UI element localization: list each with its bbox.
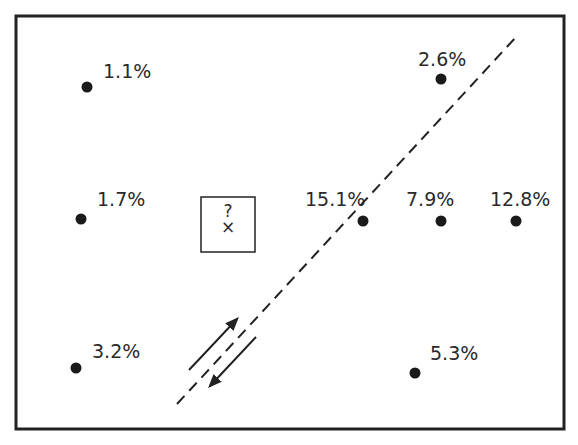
point-dot-icon [436,74,447,85]
data-point-p8: 5.3% [410,342,479,379]
point-dot-icon [511,216,522,227]
point-dot-icon [358,216,369,227]
data-point-p6: 7.9% [406,188,454,227]
arrow-up-right [189,319,237,370]
point-dot-icon [410,368,421,379]
point-label: 15.1% [305,188,365,210]
data-point-p4: 2.6% [418,48,466,85]
data-points: 1.1%1.7%3.2%2.6%15.1%7.9%12.8%5.3% [71,48,551,379]
point-dot-icon [436,216,447,227]
data-point-p1: 1.1% [82,60,152,93]
point-label: 1.7% [97,188,145,210]
data-point-p3: 3.2% [71,340,141,374]
diagram-frame [16,16,564,429]
point-dot-icon [82,82,93,93]
point-label: 2.6% [418,48,466,70]
point-label: 5.3% [430,342,478,364]
point-dot-icon [71,363,82,374]
point-label: 7.9% [406,188,454,210]
point-label: 3.2% [92,340,140,362]
x-marker-icon: × [221,217,235,237]
diagram-canvas: ? × 1.1%1.7%3.2%2.6%15.1%7.9%12.8%5.3% [0,0,578,445]
data-point-p5: 15.1% [305,188,369,227]
data-point-p2: 1.7% [76,188,146,225]
point-label: 12.8% [490,188,550,210]
data-point-p7: 12.8% [490,188,550,227]
point-label: 1.1% [103,60,151,82]
unknown-location-box: ? × [201,197,255,252]
point-dot-icon [76,214,87,225]
